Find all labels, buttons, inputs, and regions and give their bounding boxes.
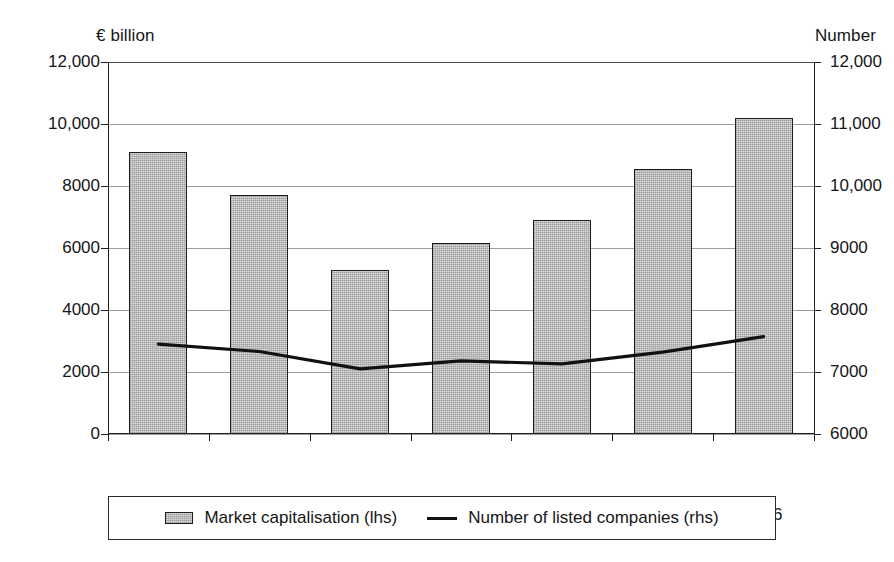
x-axis-tick bbox=[209, 434, 210, 441]
right-axis-tick-label: 7000 bbox=[830, 363, 868, 380]
gridline bbox=[108, 124, 814, 125]
legend-label-listed-companies: Number of listed companies (rhs) bbox=[468, 508, 718, 528]
left-axis-tick-label: 4000 bbox=[62, 301, 100, 318]
bar bbox=[129, 152, 187, 434]
legend-item-market-capitalisation: Market capitalisation (lhs) bbox=[165, 508, 397, 528]
bar bbox=[432, 243, 490, 434]
chart-figure: € billion Number 0200040006000800010,000… bbox=[0, 0, 894, 562]
left-axis-tick-label: 12,000 bbox=[48, 53, 100, 70]
right-axis-unit-caption: Number bbox=[815, 26, 876, 46]
left-axis-spine bbox=[108, 62, 109, 434]
right-axis-tick-label: 6000 bbox=[830, 425, 868, 442]
bar bbox=[230, 195, 288, 434]
x-axis-tick bbox=[310, 434, 311, 441]
left-axis-tick bbox=[101, 186, 108, 187]
right-axis-tick bbox=[814, 434, 821, 435]
left-axis-unit-caption: € billion bbox=[96, 26, 155, 46]
left-axis-tick-label: 10,000 bbox=[48, 115, 100, 132]
x-axis-tick bbox=[814, 434, 815, 441]
bar bbox=[735, 118, 793, 434]
right-axis-tick-label: 11,000 bbox=[830, 115, 881, 132]
right-axis-tick bbox=[814, 124, 821, 125]
x-axis-baseline bbox=[108, 433, 814, 434]
gridline bbox=[108, 186, 814, 187]
gridline bbox=[108, 62, 814, 63]
bar bbox=[634, 169, 692, 434]
left-axis-tick bbox=[101, 434, 108, 435]
legend-label-market-capitalisation: Market capitalisation (lhs) bbox=[204, 508, 397, 528]
right-axis-tick-label: 9000 bbox=[830, 239, 868, 256]
right-axis-tick-label: 12,000 bbox=[830, 53, 882, 70]
plot-area: 0200040006000800010,00012,000 6000700080… bbox=[108, 62, 814, 434]
x-axis-tick bbox=[713, 434, 714, 441]
x-axis-tick bbox=[108, 434, 109, 441]
right-axis-tick bbox=[814, 186, 821, 187]
bar bbox=[533, 220, 591, 434]
x-axis-tick bbox=[511, 434, 512, 441]
left-axis-tick bbox=[101, 62, 108, 63]
left-axis-tick bbox=[101, 248, 108, 249]
line-swatch-icon bbox=[427, 517, 457, 520]
right-axis-tick bbox=[814, 62, 821, 63]
right-axis-tick bbox=[814, 248, 821, 249]
x-axis-tick bbox=[411, 434, 412, 441]
legend-item-listed-companies: Number of listed companies (rhs) bbox=[427, 508, 718, 528]
right-axis-tick bbox=[814, 372, 821, 373]
right-axis-tick-label: 8000 bbox=[830, 301, 868, 318]
left-axis-tick-label: 6000 bbox=[62, 239, 100, 256]
left-axis-tick bbox=[101, 310, 108, 311]
right-axis-tick bbox=[814, 310, 821, 311]
bar bbox=[331, 270, 389, 434]
left-axis-tick-label: 2000 bbox=[62, 363, 100, 380]
bar-swatch-icon bbox=[165, 512, 193, 524]
right-axis-tick-label: 10,000 bbox=[830, 177, 882, 194]
x-axis-tick bbox=[612, 434, 613, 441]
chart-legend: Market capitalisation (lhs) Number of li… bbox=[108, 496, 776, 540]
left-axis-tick bbox=[101, 124, 108, 125]
left-axis-tick-label: 0 bbox=[91, 425, 100, 442]
left-axis-tick-label: 8000 bbox=[62, 177, 100, 194]
gridline bbox=[108, 434, 814, 435]
left-axis-tick bbox=[101, 372, 108, 373]
